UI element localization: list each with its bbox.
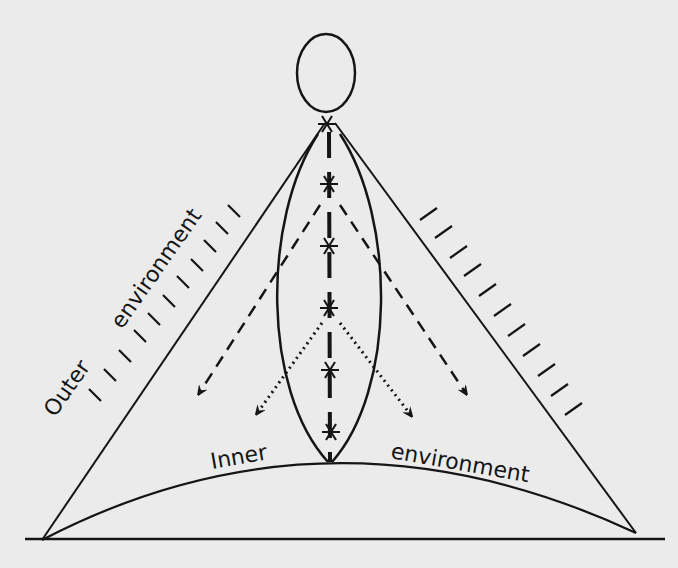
head-ellipse (297, 34, 355, 112)
asterisk-icon (320, 238, 338, 254)
dotted-arrow-left (258, 323, 322, 412)
dashed-arrow-right (340, 205, 465, 392)
label-outer: Outer (39, 355, 96, 421)
inner-environment-floor-arc (42, 463, 636, 540)
diagram-svg: Outer environment Inner environment (0, 0, 678, 568)
diagram-canvas: Outer environment Inner environment (0, 0, 678, 568)
label-inner-environment: environment (389, 438, 532, 487)
body-right-curve (332, 134, 381, 462)
outer-hatching-right (420, 208, 582, 415)
dashed-arrow-left (200, 205, 320, 392)
outer-boundary-left (42, 123, 325, 540)
label-outer-environment: environment (106, 203, 207, 332)
